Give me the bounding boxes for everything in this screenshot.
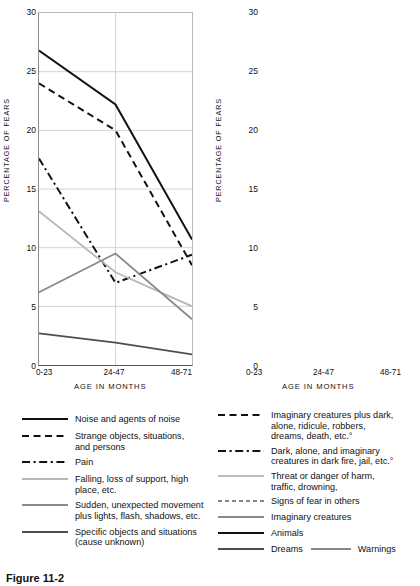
legend-swatch [218, 448, 264, 458]
x-axis-tick-label: 0-23 [36, 368, 52, 377]
legend-item: Falling, loss of support, high place, et… [22, 474, 220, 495]
y-axis-tick-label: 15 [18, 184, 36, 194]
legend-line-swatch [311, 546, 351, 552]
legend-line-swatch [218, 448, 264, 454]
legend-swatch [22, 416, 68, 426]
legend-right: Imaginary creatures plus dark, alone, ri… [218, 410, 420, 560]
x-axis-tick-label: 0-23 [246, 368, 262, 377]
legend-item: Imaginary creatures [218, 512, 420, 524]
legend-label: Imaginary creatures plus dark, alone, ri… [271, 410, 393, 442]
chart-panel-right: PERCENTAGE OF FEARS 051015202530 0-2324-… [212, 0, 420, 400]
y-axis-tick-label: 15 [240, 184, 258, 194]
legend-line-swatch [218, 546, 264, 552]
legend-line-swatch [218, 514, 264, 520]
y-axis-label-right: PERCENTAGE OF FEARS [214, 98, 223, 202]
figure-caption: Figure 11-2 [6, 572, 64, 584]
legend-label: Specific objects and situations (cause u… [75, 527, 197, 548]
y-axis-tick-label: 20 [240, 125, 258, 135]
legend-line-swatch [22, 416, 68, 422]
legend-item: Signs of fear in others [218, 496, 420, 508]
y-axis-tick-label: 5 [18, 302, 36, 312]
legend-label: Falling, loss of support, high place, et… [75, 474, 188, 495]
legend-swatch [218, 546, 264, 556]
legend-item: Pain [22, 457, 220, 469]
legend-item-pair: Dreams Warnings [218, 544, 420, 556]
y-axis-label-left: PERCENTAGE OF FEARS [2, 98, 11, 202]
legend-line-swatch [218, 530, 264, 536]
y-axis-ticks-right: 051015202530 [238, 0, 258, 400]
x-axis-tick-label: 48-71 [380, 368, 401, 377]
legend-label: Strange objects, situations, and persons [75, 431, 184, 452]
legend-line-swatch [218, 498, 264, 504]
y-axis-tick-label: 0 [18, 361, 36, 371]
legend-label: Imaginary creatures [271, 512, 351, 523]
plot-area-left [38, 12, 193, 366]
legend-item: Dark, alone, and imaginary creatures in … [218, 446, 420, 467]
x-axis-tick-label: 24-47 [313, 368, 334, 377]
legend-item: Specific objects and situations (cause u… [22, 527, 220, 548]
legend-label: Pain [75, 457, 93, 468]
x-axis-tick-label: 24-47 [104, 368, 125, 377]
legend-label: Warnings [358, 544, 396, 555]
figure-page: PERCENTAGE OF FEARS 051015202530 0-2324-… [0, 0, 420, 586]
y-axis-tick-label: 10 [240, 243, 258, 253]
legend-label: Dark, alone, and imaginary creatures in … [271, 446, 393, 467]
y-axis-tick-label: 25 [18, 66, 36, 76]
legend-item: Noise and agents of noise [22, 414, 220, 426]
legend-item: Imaginary creatures plus dark, alone, ri… [218, 410, 420, 442]
legend-label: Dreams [271, 544, 303, 555]
legend-swatch [218, 514, 264, 524]
legend-line-swatch [218, 412, 264, 418]
y-axis-tick-label: 5 [240, 302, 258, 312]
legend-line-swatch [218, 473, 264, 479]
legend-line-swatch [22, 476, 68, 482]
legend-item: Animals [218, 528, 420, 540]
legend-label: Animals [271, 528, 303, 539]
legend-item: Sudden, unexpected movement plus lights,… [22, 500, 220, 521]
legend-swatch [218, 473, 264, 483]
legend-swatch [218, 530, 264, 540]
legend-left: Noise and agents of noise Strange object… [22, 414, 220, 553]
legend-item: Strange objects, situations, and persons [22, 431, 220, 452]
y-axis-tick-label: 30 [18, 7, 36, 17]
legend-swatch [22, 459, 68, 469]
legend-label: Sudden, unexpected movement plus lights,… [75, 500, 203, 521]
legend-swatch [22, 502, 68, 512]
y-axis-tick-label: 30 [240, 7, 258, 17]
legend-swatch [311, 546, 351, 556]
legend-line-swatch [22, 529, 68, 535]
x-axis-tick-label: 48-71 [171, 368, 192, 377]
legend-label: Threat or danger of harm, traffic, drown… [271, 471, 375, 492]
chart-panel-left: PERCENTAGE OF FEARS 051015202530 0-2324-… [0, 0, 212, 400]
y-axis-tick-label: 20 [18, 125, 36, 135]
y-axis-tick-label: 25 [240, 66, 258, 76]
legend-swatch [218, 498, 264, 508]
legend-swatch [22, 433, 68, 443]
legend-swatch [22, 476, 68, 486]
legend-label: Signs of fear in others [271, 496, 359, 507]
legend-swatch [218, 412, 264, 422]
legend-line-swatch [22, 433, 68, 439]
legend-line-swatch [22, 502, 68, 508]
y-axis-tick-label: 10 [18, 243, 36, 253]
y-axis-ticks-left: 051015202530 [16, 0, 36, 400]
legend-label: Noise and agents of noise [75, 414, 180, 425]
legend-swatch [22, 529, 68, 539]
line-chart-left [39, 13, 192, 365]
x-axis-label-right: AGE IN MONTHS [282, 382, 354, 391]
x-axis-label-left: AGE IN MONTHS [74, 382, 146, 391]
legend-item: Threat or danger of harm, traffic, drown… [218, 471, 420, 492]
legend-line-swatch [22, 459, 68, 465]
